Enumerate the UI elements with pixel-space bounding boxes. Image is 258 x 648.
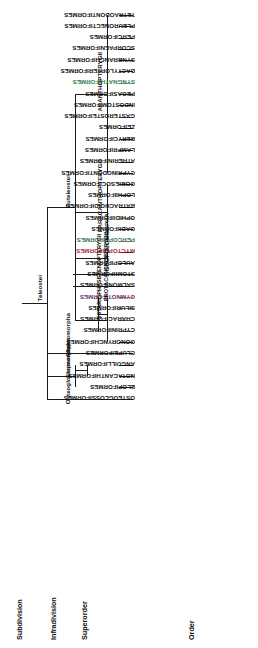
clade-label: OSTARIOPHYSI bbox=[96, 278, 103, 320]
order-label: CHARACIFORMES bbox=[80, 316, 135, 323]
tree-branch-horizontal bbox=[75, 370, 87, 371]
tree-branch-vertical bbox=[22, 303, 23, 304]
tree-branch-horizontal bbox=[22, 303, 47, 304]
order-label: ANGUILLIFORMES bbox=[79, 361, 135, 368]
order-label: OPHIDIIFORMES bbox=[86, 215, 135, 222]
order-label: ATHERINIFORMES bbox=[80, 158, 135, 165]
clade-label: PROTACANTHOPTERYGII bbox=[103, 232, 110, 301]
order-label: AULOPIFORMES bbox=[85, 260, 135, 267]
order-label: PLEURONECTIFORMES bbox=[64, 23, 135, 30]
cladogram-figure: TETRAODONTIFORMESPLEURONECTIFORMESPERCIF… bbox=[0, 0, 258, 648]
clade-label: Teleostei bbox=[36, 275, 43, 301]
order-label: CYPRINIFORMES bbox=[84, 327, 135, 334]
order-label: SCORPAENIFORMES bbox=[72, 45, 135, 52]
order-label: ZEIFORMES bbox=[99, 124, 135, 131]
column-header-order: Order bbox=[188, 620, 196, 640]
order-label: PEGASIFORMES bbox=[85, 91, 135, 98]
order-label: GOBIESOCIFORMES bbox=[74, 181, 135, 188]
clade-label: ACANTHOPTERYGII bbox=[96, 52, 103, 112]
order-label: ELOPIFORMES bbox=[90, 384, 135, 391]
clade-label: STENOPTERYGII bbox=[96, 234, 103, 279]
order-label: TETRAODONTIFORMES bbox=[64, 12, 135, 19]
column-header-subdivision: Subdivision bbox=[16, 599, 24, 640]
clade-label: PARACANTHOPTERYGII bbox=[96, 160, 103, 232]
order-label: LAMPRIFORMES bbox=[85, 147, 135, 154]
clade-label: Osteoglossomorpha bbox=[64, 344, 71, 404]
order-label: OSTEOGLOSSIFORMES bbox=[64, 395, 135, 402]
order-label: CLUPEIFORMES bbox=[86, 350, 135, 357]
order-label: STOMIIFORMES bbox=[87, 271, 135, 278]
order-label: SYNGNATHIFORMES bbox=[73, 79, 135, 86]
order-label: GASTEROSTEIFORMES bbox=[64, 113, 135, 120]
order-label: INDOSTOMIFORMES bbox=[74, 102, 135, 109]
order-label: PERCIFORMES bbox=[90, 34, 135, 41]
column-header-infradivision: Infradivision bbox=[50, 597, 58, 640]
clade-label: Euteleostei bbox=[64, 175, 71, 208]
order-label: BERYCIFORMES bbox=[86, 136, 135, 143]
order-label: NOTACANTHIFORMES bbox=[68, 373, 135, 380]
order-label: GONORYNCHIFORMES bbox=[66, 339, 135, 346]
column-header-superorder: Superorder bbox=[81, 601, 89, 640]
tree-branch-vertical bbox=[47, 207, 48, 399]
